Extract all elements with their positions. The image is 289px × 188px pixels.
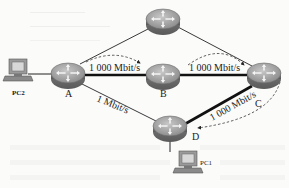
pc1-icon: [173, 151, 203, 173]
router-top-icon: [146, 9, 180, 35]
label-link-ab: 1 000 Mbit/s: [89, 62, 140, 73]
label-link-bc: 1 000 Mbit/s: [189, 62, 240, 73]
label-pc1: PC1: [200, 159, 213, 167]
label-node-b: B: [160, 88, 167, 99]
label-node-a: A: [65, 88, 73, 99]
label-link-ad: 1 Mbit/s: [95, 93, 130, 116]
label-pc2: PC2: [12, 89, 25, 97]
diagram-canvas: 1 000 Mbit/s 1 000 Mbit/s 1 000 Mbit/s 1…: [0, 0, 289, 188]
link-a-top: [80, 28, 150, 64]
link-top-c: [176, 26, 252, 66]
label-node-c: C: [255, 98, 262, 109]
router-d-icon: [153, 116, 187, 142]
pc2-icon: [3, 59, 33, 81]
router-b-icon: [146, 64, 180, 90]
label-node-d: D: [192, 131, 199, 142]
router-c-icon: [247, 63, 281, 89]
router-a-icon: [51, 63, 85, 89]
network-diagram: 1 000 Mbit/s 1 000 Mbit/s 1 000 Mbit/s 1…: [0, 0, 289, 188]
